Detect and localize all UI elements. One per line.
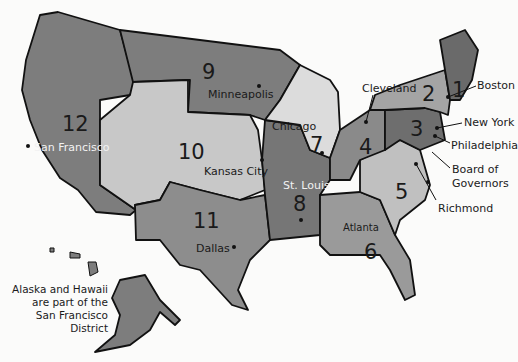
district-number-1: 1 (452, 78, 465, 102)
city-label-kansas-city: Kansas City (204, 165, 268, 178)
city-label-dallas: Dallas (196, 242, 230, 255)
district-number-11: 11 (193, 209, 220, 233)
city-label-minneapolis: Minneapolis (208, 88, 274, 101)
city-label-richmond: Richmond (438, 202, 493, 215)
city-label-boston: Boston (477, 79, 515, 92)
alaska-hawaii-note: Alaska and Hawaii are part of the San Fr… (4, 283, 108, 335)
note-line-1: Alaska and Hawaii (4, 283, 108, 296)
city-label-san-francisco: San Francisco (34, 141, 110, 154)
district-number-5: 5 (395, 180, 408, 204)
board-of-governors-label-line2: Governors (452, 177, 509, 190)
district-number-4: 4 (359, 135, 372, 159)
city-label-st-louis: St. Louis (283, 179, 330, 192)
district-number-9: 9 (202, 60, 215, 84)
city-label-new-york: New York (464, 116, 514, 129)
note-line-3: San Francisco District (4, 309, 108, 335)
note-line-2: are part of the (4, 296, 108, 309)
district-number-8: 8 (293, 192, 306, 216)
district-number-2: 2 (422, 82, 435, 106)
city-label-philadelphia: Philadelphia (451, 139, 518, 152)
district-number-10: 10 (178, 140, 205, 164)
district-number-3: 3 (410, 117, 423, 141)
district-number-7: 7 (310, 133, 323, 157)
city-label-chicago: Chicago (272, 120, 316, 133)
city-label-cleveland: Cleveland (362, 82, 417, 95)
city-label-atlanta: Atlanta (343, 222, 379, 233)
district-number-6: 6 (364, 240, 377, 264)
board-of-governors-label-line1: Board of (452, 163, 498, 176)
hawaii-region (50, 248, 98, 276)
district-number-12: 12 (62, 112, 89, 136)
